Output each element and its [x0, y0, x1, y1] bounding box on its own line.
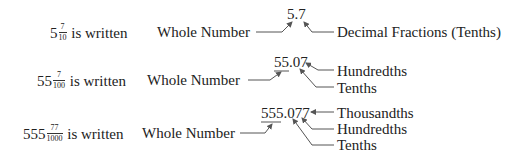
- arrow-hundredths-3: [302, 118, 334, 129]
- arrow-whole-1: [256, 22, 292, 32]
- arrow-hundredths-2: [306, 63, 334, 70]
- arrow-tenths-1: [304, 22, 334, 32]
- arrow-whole-2: [248, 72, 281, 80]
- arrow-whole-3: [240, 124, 272, 133]
- arrow-tenths-3: [293, 119, 334, 145]
- arrow-tenths-2: [300, 69, 334, 87]
- arrow-connectors: [0, 0, 516, 167]
